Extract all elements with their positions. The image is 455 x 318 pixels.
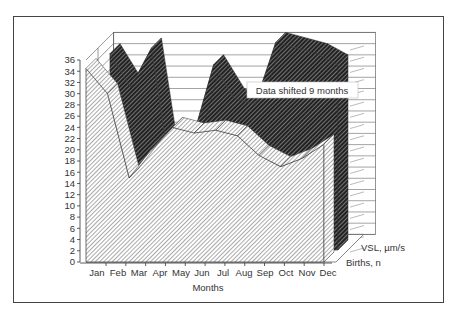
y-tick-label: 16 (64, 167, 75, 178)
y-tick-label: 24 (64, 122, 75, 133)
x-tick-label: Oct (279, 267, 294, 278)
x-axis-title: Months (192, 282, 223, 293)
annotation-box: Data shifted 9 months (247, 82, 358, 98)
x-tick-label: Dec (320, 267, 337, 278)
x-tick-label: Jun (194, 267, 209, 278)
y-tick-label: 0 (70, 256, 75, 267)
y-tick-label: 4 (70, 234, 75, 245)
y-tick-label: 26 (64, 110, 75, 121)
legend-vsl: VSL, µm/s (361, 242, 405, 253)
x-tick-label: May (172, 267, 190, 278)
chart: 024681012141618202224262830323436 JanFeb… (0, 0, 455, 318)
legend-births: Births, n (346, 257, 381, 268)
x-tick-label: Aug (236, 267, 253, 278)
y-tick-label: 12 (64, 189, 75, 200)
y-tick-label: 14 (64, 178, 75, 189)
y-tick-label: 2 (70, 245, 75, 256)
y-tick-label: 8 (70, 211, 75, 222)
x-tick-label: Sep (257, 267, 274, 278)
y-tick-label: 36 (64, 54, 75, 65)
y-tick-label: 18 (64, 155, 75, 166)
x-tick-label: Jan (89, 267, 104, 278)
y-tick-label: 6 (70, 223, 75, 234)
x-tick-label: Mar (131, 267, 147, 278)
y-tick-label: 20 (64, 144, 75, 155)
x-tick-label: Jul (217, 267, 229, 278)
x-tick-label: Feb (110, 267, 126, 278)
y-tick-label: 10 (64, 200, 75, 211)
x-tick-label: Nov (299, 267, 316, 278)
y-tick-label: 34 (64, 66, 75, 77)
x-tick-label: Apr (153, 267, 168, 278)
y-tick-label: 32 (64, 77, 75, 88)
y-tick-label: 22 (64, 133, 75, 144)
annotation-text: Data shifted 9 months (256, 85, 349, 96)
y-tick-label: 28 (64, 99, 75, 110)
y-tick-label: 30 (64, 88, 75, 99)
